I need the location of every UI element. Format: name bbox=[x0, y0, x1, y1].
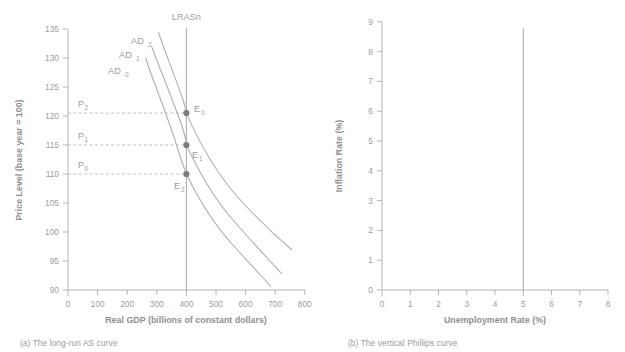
x-tick-label-b-4: 4 bbox=[493, 299, 498, 309]
p2-label-text: P bbox=[78, 99, 84, 109]
long-run-as-svg: 90 95 100 105 110 115 120 125 130 135 bbox=[0, 0, 320, 330]
x-tick-label-200: 200 bbox=[120, 299, 134, 309]
ad2-curve bbox=[158, 32, 292, 250]
y-ticks-b bbox=[377, 22, 382, 290]
x-tick-label-100: 100 bbox=[91, 299, 105, 309]
y-tick-label-b-1: 1 bbox=[368, 255, 373, 265]
e2-label-text: E bbox=[174, 181, 180, 191]
y-axis-title-b: Inflation Rate (%) bbox=[334, 120, 344, 193]
panel-a-caption: (a) The long-run AS curve bbox=[20, 338, 117, 348]
ad0-label-text: AD bbox=[108, 66, 121, 76]
ad2-label: AD 2 bbox=[131, 36, 152, 48]
y-tick-label-b-7: 7 bbox=[368, 76, 373, 86]
y-tick-label-b-2: 2 bbox=[368, 225, 373, 235]
x-tick-label-b-1: 1 bbox=[408, 299, 413, 309]
y-tick-label-90: 90 bbox=[50, 285, 60, 295]
p2-label-subscript: 2 bbox=[85, 104, 89, 111]
equilibrium-dot-e1 bbox=[183, 142, 189, 148]
x-tick-label-b-6: 6 bbox=[549, 299, 554, 309]
panel-b-caption: (b) The vertical Phillips curve bbox=[348, 338, 457, 348]
chart-panel-long-run-as: 90 95 100 105 110 115 120 125 130 135 bbox=[0, 0, 320, 352]
y-tick-label-100: 100 bbox=[45, 227, 59, 237]
x-tick-label-700: 700 bbox=[268, 299, 282, 309]
y-tick-label-b-3: 3 bbox=[368, 196, 373, 206]
ad0-label: AD 0 bbox=[108, 66, 129, 78]
ad1-curve bbox=[152, 46, 283, 274]
x-tick-label-b-7: 7 bbox=[577, 299, 582, 309]
y-tick-label-110: 110 bbox=[46, 169, 60, 179]
x-tick-label-300: 300 bbox=[150, 299, 164, 309]
x-tick-label-b-8: 8 bbox=[606, 299, 611, 309]
y-axis-title-a: Price Level (base year = 100) bbox=[14, 99, 24, 220]
economics-figure: 90 95 100 105 110 115 120 125 130 135 bbox=[0, 0, 625, 352]
ad0-label-subscript: 0 bbox=[125, 71, 129, 78]
y-tick-label-b-9: 9 bbox=[368, 17, 373, 27]
x-tick-label-500: 500 bbox=[209, 299, 223, 309]
x-tick-label-400: 400 bbox=[179, 299, 193, 309]
y-tick-label-120: 120 bbox=[45, 111, 59, 121]
y-tick-label-b-0: 0 bbox=[368, 285, 373, 295]
p1-label-subscript: 1 bbox=[85, 136, 89, 143]
x-axis-title-a: Real GDP (billions of constant dollars) bbox=[105, 315, 267, 325]
e2-label-subscript: 2 bbox=[181, 186, 185, 193]
y-tick-label-b-8: 8 bbox=[368, 47, 373, 57]
y-tick-label-b-6: 6 bbox=[368, 106, 373, 116]
y-tick-label-105: 105 bbox=[45, 198, 59, 208]
y-tick-label-b-5: 5 bbox=[368, 136, 373, 146]
e1-label-text: E bbox=[192, 150, 198, 160]
e0-label-text: E bbox=[194, 104, 200, 114]
ad0-curve bbox=[146, 58, 271, 287]
x-tick-label-600: 600 bbox=[239, 299, 253, 309]
ad2-label-text: AD bbox=[131, 36, 144, 46]
p2-label: P 2 bbox=[78, 99, 89, 111]
p1-label-text: P bbox=[78, 131, 84, 141]
e0-label-subscript: 0 bbox=[201, 109, 205, 116]
y-tick-label-115: 115 bbox=[46, 140, 60, 150]
y-tick-label-135: 135 bbox=[45, 24, 59, 34]
lrasn-label: LRASn bbox=[172, 12, 201, 22]
y-tick-label-95: 95 bbox=[50, 256, 60, 266]
x-tick-label-b-0: 0 bbox=[380, 299, 385, 309]
ad1-label-text: AD bbox=[119, 50, 132, 60]
ad1-label-subscript: 1 bbox=[136, 55, 140, 62]
y-tick-label-130: 130 bbox=[45, 53, 59, 63]
equilibrium-dot-e0 bbox=[183, 110, 189, 116]
p0-label-text: P bbox=[78, 160, 84, 170]
equilibrium-dot-e2 bbox=[183, 171, 189, 177]
phillips-curve-svg: 0 1 2 3 4 5 6 7 8 9 0 1 bbox=[320, 0, 625, 330]
x-tick-label-800: 800 bbox=[298, 299, 312, 309]
p1-label: P 1 bbox=[78, 131, 89, 143]
e0-label: E 0 bbox=[194, 104, 205, 116]
x-ticks-b bbox=[382, 290, 608, 296]
x-tick-label-0: 0 bbox=[66, 299, 71, 309]
y-ticks-a bbox=[63, 29, 68, 290]
p0-label: P 0 bbox=[78, 160, 89, 172]
ad2-label-subscript: 2 bbox=[148, 41, 152, 48]
x-axis-title-b: Unemployment Rate (%) bbox=[444, 315, 546, 325]
y-tick-label-b-4: 4 bbox=[368, 166, 373, 176]
e2-label: E 2 bbox=[174, 181, 185, 193]
x-ticks-a bbox=[68, 290, 305, 296]
y-tick-label-125: 125 bbox=[45, 82, 59, 92]
e1-label-subscript: 1 bbox=[199, 155, 203, 162]
ad1-label: AD 1 bbox=[119, 50, 140, 62]
x-tick-label-b-3: 3 bbox=[464, 299, 469, 309]
x-tick-label-b-2: 2 bbox=[436, 299, 441, 309]
x-tick-label-b-5: 5 bbox=[521, 299, 526, 309]
p0-label-subscript: 0 bbox=[85, 165, 89, 172]
chart-panel-phillips: 0 1 2 3 4 5 6 7 8 9 0 1 bbox=[320, 0, 625, 352]
